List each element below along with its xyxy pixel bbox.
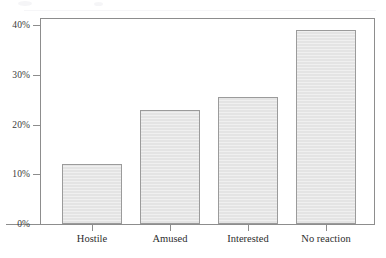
bar-interested <box>218 97 278 224</box>
x-axis-tick-hostile <box>92 225 93 231</box>
x-axis-line <box>6 224 375 225</box>
x-axis-label-amused: Amused <box>130 234 210 245</box>
y-axis-tick-0 <box>33 224 40 225</box>
x-axis-label-hostile: Hostile <box>52 234 132 245</box>
x-axis-tick-no-reaction <box>326 225 327 231</box>
y-axis-label-10: 10% <box>0 170 30 180</box>
plot-frame-top-border <box>40 18 375 19</box>
x-axis-label-no-reaction: No reaction <box>284 234 368 245</box>
y-axis-tick-40 <box>33 25 40 26</box>
bar-amused <box>140 110 200 224</box>
y-axis-tick-30 <box>33 75 40 76</box>
x-axis-label-interested: Interested <box>208 234 288 245</box>
y-axis-label-20: 20% <box>0 121 30 131</box>
bar-no-reaction <box>296 30 356 224</box>
y-axis-label-30: 30% <box>0 71 30 81</box>
scan-artifact-speck <box>94 2 103 6</box>
y-axis-label-0: 0% <box>0 220 30 230</box>
y-axis-tick-10 <box>33 174 40 175</box>
y-axis-tick-20 <box>33 125 40 126</box>
scan-artifact-speck <box>18 1 32 6</box>
x-axis-tick-amused <box>170 225 171 231</box>
scan-artifact-line <box>24 10 376 11</box>
y-axis-line <box>40 18 41 225</box>
bar-hostile <box>62 164 122 224</box>
x-axis-tick-interested <box>248 225 249 231</box>
y-axis-label-40: 40% <box>0 21 30 31</box>
bar-chart-figure: 40% 30% 20% 10% 0% Hostile Amused Intere… <box>0 0 386 258</box>
plot-frame-right-border <box>374 18 375 225</box>
